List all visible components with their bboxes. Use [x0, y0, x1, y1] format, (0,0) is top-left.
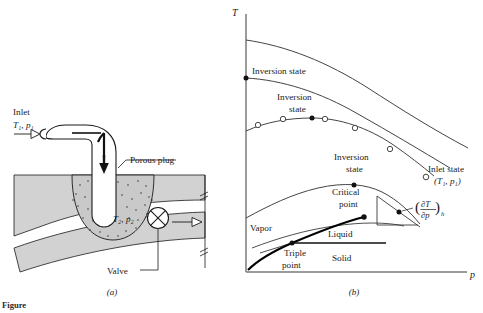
- panel-a-throttling-apparatus: Inlet T₁, p₁ Porous plug T₂, p₂ Valve (a…: [0, 0, 241, 313]
- label-triple-point-line1: Triple: [284, 248, 306, 258]
- marker-jt-coefficient: [397, 210, 402, 215]
- apparatus-svg: Inlet T₁, p₁ Porous plug T₂, p₂ Valve (a…: [0, 0, 241, 313]
- isenthalpic-curve-middle: [246, 118, 434, 176]
- label-inlet: Inlet: [13, 107, 30, 117]
- panel-b-tp-diagram: T p: [222, 0, 483, 313]
- label-inlet-state-line1: Inlet state: [428, 164, 464, 174]
- jt-numerator: ∂T: [421, 199, 431, 209]
- label-exit-state: T₂, p₂: [113, 214, 134, 224]
- marker-triple-point: [290, 241, 295, 246]
- y-axis-label: T: [232, 7, 239, 18]
- tp-diagram-svg: T p: [222, 0, 483, 313]
- chart-markers-filled: [244, 76, 402, 246]
- label-triple-point-line2: point: [282, 260, 301, 270]
- label-inversion-state-1: Inversion state: [252, 66, 306, 76]
- label-porous-plug: Porous plug: [130, 155, 175, 165]
- valve-circle-x-icon: [148, 208, 169, 229]
- inlet-arrow-icon: [14, 130, 40, 139]
- chart-axes: [246, 14, 467, 272]
- label-jt-coefficient: ( ∂T ∂p ) h: [415, 199, 445, 220]
- marker-critical-point: [361, 214, 366, 219]
- jt-subscript: h: [441, 210, 445, 217]
- label-inlet-state: T₁, p₁: [13, 120, 34, 130]
- label-inlet-state-line2: (T₁, p₁): [434, 176, 461, 186]
- label-critical-point-line1: Critical: [332, 187, 360, 197]
- label-region-solid: Solid: [332, 253, 352, 263]
- figure-caption-number: Figure: [2, 300, 26, 310]
- label-region-vapor: Vapor: [250, 223, 272, 233]
- svg-text:(: (: [415, 199, 420, 216]
- label-critical-point-line2: point: [339, 199, 358, 209]
- panel-a-caption: (a): [107, 287, 118, 297]
- label-valve: Valve: [107, 266, 128, 276]
- label-inversion-state-3-line2: state: [346, 164, 363, 174]
- marker-inlet-state: [423, 174, 429, 180]
- chart-markers-open: [255, 116, 428, 180]
- label-region-liquid: Liquid: [328, 229, 353, 239]
- marker-inversion-state-1: [244, 76, 249, 81]
- jt-denominator: ∂p: [421, 210, 430, 220]
- marker-inversion-state-2: [310, 116, 315, 121]
- figure-root: Inlet T₁, p₁ Porous plug T₂, p₂ Valve (a…: [0, 0, 483, 313]
- x-axis-label: p: [469, 269, 475, 280]
- label-inversion-state-3-line1: Inversion: [334, 152, 369, 162]
- label-inversion-state-2-line1: Inversion: [277, 92, 312, 102]
- panel-b-caption: (b): [349, 287, 360, 297]
- label-inversion-state-2-line2: state: [289, 104, 306, 114]
- svg-text:): ): [435, 199, 440, 216]
- figure-caption: Figure: [2, 300, 481, 313]
